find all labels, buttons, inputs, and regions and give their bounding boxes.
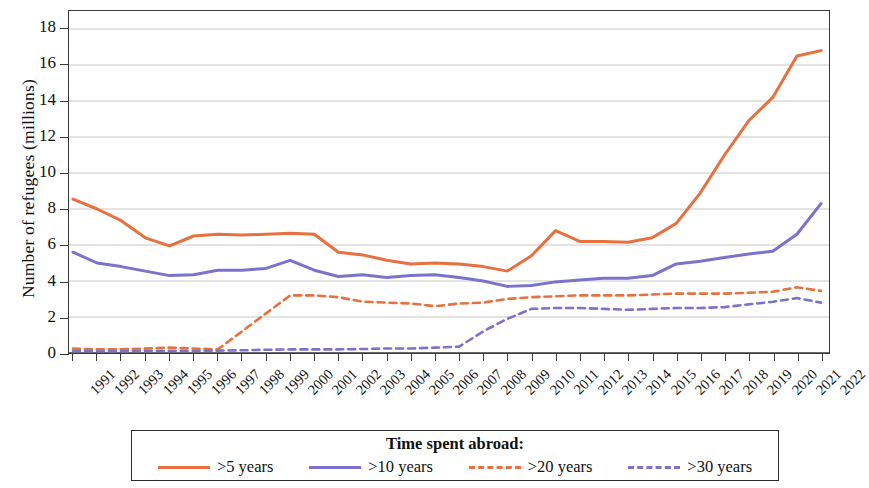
y-tick-label: 4 (48, 271, 57, 291)
legend-item[interactable]: >20 years (469, 457, 593, 477)
x-tick-mark (725, 354, 726, 361)
legend-swatch-solid-line-icon (158, 466, 210, 469)
x-tick-mark (411, 354, 412, 361)
y-tick-mark (60, 354, 69, 355)
y-tick-label: 10 (39, 162, 56, 182)
y-tick-label: 2 (48, 307, 57, 327)
legend-swatch-dashed-line-icon (628, 466, 680, 469)
x-tick-mark (580, 354, 581, 361)
x-tick-mark (459, 354, 460, 361)
x-tick-mark (435, 354, 436, 361)
legend-swatch-solid-line-icon (309, 466, 361, 469)
plot-area (68, 10, 830, 354)
legend-items: >5 years>10 years>20 years>30 years (132, 457, 778, 477)
x-tick-label: 2022 (836, 366, 869, 399)
x-tick-mark (798, 354, 799, 361)
legend-item[interactable]: >5 years (158, 457, 274, 477)
y-tick-label: 14 (39, 90, 56, 110)
series-line-2 (73, 287, 821, 349)
y-axis-title: Number of refugees (millions) (18, 9, 39, 369)
legend-item[interactable]: >10 years (309, 457, 433, 477)
x-tick-mark (241, 354, 242, 361)
x-tick-mark (72, 354, 73, 361)
legend-item-label: >30 years (687, 457, 752, 477)
legend-title: Time spent abroad: (132, 434, 778, 454)
x-tick-mark (314, 354, 315, 361)
x-tick-mark (169, 354, 170, 361)
legend-item-label: >10 years (368, 457, 433, 477)
x-tick-mark (822, 354, 823, 361)
legend-item-label: >20 years (528, 457, 593, 477)
x-tick-mark (362, 354, 363, 361)
x-tick-mark (653, 354, 654, 361)
y-tick-label: 0 (48, 343, 57, 363)
series-lines (69, 11, 829, 353)
x-tick-mark (193, 354, 194, 361)
legend-item-label: >5 years (217, 457, 274, 477)
x-tick-mark (120, 354, 121, 361)
series-line-1 (73, 204, 821, 287)
chart-legend: Time spent abroad: >5 years>10 years>20 … (131, 430, 779, 481)
y-tick-label: 6 (48, 234, 57, 254)
x-tick-mark (677, 354, 678, 361)
x-tick-mark (749, 354, 750, 361)
x-tick-mark (628, 354, 629, 361)
x-tick-mark (338, 354, 339, 361)
x-tick-mark (701, 354, 702, 361)
y-tick-label: 18 (39, 17, 56, 37)
x-tick-mark (532, 354, 533, 361)
x-tick-mark (604, 354, 605, 361)
x-tick-mark (507, 354, 508, 361)
y-tick-label: 8 (48, 198, 57, 218)
x-tick-mark (774, 354, 775, 361)
x-tick-mark (266, 354, 267, 361)
x-tick-mark (290, 354, 291, 361)
series-line-3 (73, 298, 821, 351)
legend-swatch-dashed-line-icon (469, 466, 521, 469)
x-tick-mark (145, 354, 146, 361)
legend-item[interactable]: >30 years (628, 457, 752, 477)
x-tick-mark (556, 354, 557, 361)
y-tick-label: 16 (39, 53, 56, 73)
series-line-0 (73, 51, 821, 272)
x-tick-mark (217, 354, 218, 361)
y-tick-label: 12 (39, 126, 56, 146)
x-tick-mark (483, 354, 484, 361)
x-tick-mark (387, 354, 388, 361)
x-tick-mark (96, 354, 97, 361)
